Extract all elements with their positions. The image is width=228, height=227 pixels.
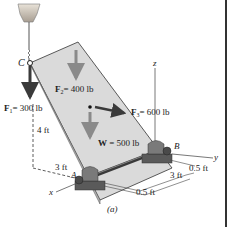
dim-05ft-right: 0.5 ft xyxy=(189,163,208,173)
z-axis-label: z xyxy=(152,58,157,68)
force-w-label: W = 500 lb xyxy=(98,138,140,148)
y-axis xyxy=(172,154,213,158)
dim-05ft-bottom: 0.5 ft xyxy=(136,187,155,197)
plate xyxy=(30,42,172,204)
hanging-weight-bucket xyxy=(18,4,40,22)
dim-3ft-right: 3 ft xyxy=(170,170,183,180)
cable-spring xyxy=(28,22,30,62)
dim-4ft: 4 ft xyxy=(37,125,50,135)
rigid-body-diagram: C F1= 300 lb F2= 400 lb W = 500 lb F3= 6… xyxy=(0,0,228,227)
centroid-point xyxy=(88,105,92,109)
point-b-label: B xyxy=(174,141,180,151)
x-axis-label: x xyxy=(48,187,53,197)
figure-caption: (a) xyxy=(107,204,118,214)
y-axis-label: y xyxy=(213,152,218,162)
force-f3-label: F3= 600 lb xyxy=(131,107,170,118)
point-c-label: C xyxy=(18,57,25,68)
dim-3ft-left: 3 ft xyxy=(55,162,68,172)
point-a-label: A xyxy=(70,170,77,180)
point-c-marker xyxy=(28,61,33,66)
force-f1-label: F1= 300 lb xyxy=(4,103,43,114)
right-border-line xyxy=(225,0,227,227)
